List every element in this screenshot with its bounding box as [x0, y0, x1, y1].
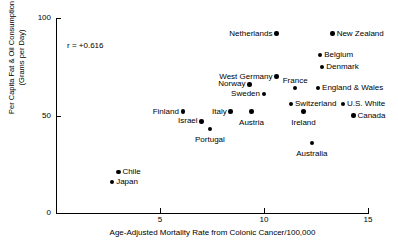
data-point-label: Canada [357, 112, 385, 120]
y-axis-title: Per Capita Fat & Oil Consumption (Grams … [7, 0, 26, 148]
x-tick-5 [160, 208, 161, 213]
data-point-label: Sweden [231, 90, 260, 98]
data-point-label: Finland [153, 108, 179, 116]
data-point-label: Belgium [324, 51, 353, 59]
data-point [274, 74, 279, 79]
data-point [330, 31, 335, 36]
data-point-label: France [283, 77, 308, 85]
data-point [249, 109, 254, 114]
x-tick-15 [368, 208, 369, 213]
data-point-label: New Zealand [337, 30, 384, 38]
data-point-label: Denmark [326, 63, 358, 71]
data-point [289, 102, 294, 107]
data-point [274, 31, 279, 36]
scatter-plot: 51015050100 Per Capita Fat & Oil Consump… [0, 0, 398, 246]
data-point-label: Netherlands [229, 30, 272, 38]
data-point-label: Ireland [291, 119, 315, 127]
data-point [247, 82, 252, 87]
correlation-annotation: r = +0.616 [67, 41, 103, 50]
data-point [310, 141, 315, 146]
data-point [208, 127, 213, 132]
data-point [116, 170, 121, 175]
y-tick-label-0: 0 [5, 209, 51, 217]
data-point-label: Japan [116, 178, 138, 186]
data-point [301, 109, 306, 114]
data-point [199, 119, 204, 124]
data-point-label: Italy [212, 108, 227, 116]
data-point [181, 109, 186, 114]
y-tick-0 [56, 213, 61, 214]
data-point [110, 180, 115, 185]
data-point-label: Portugal [195, 136, 225, 144]
x-tick-label-15: 15 [353, 216, 383, 224]
y-tick-50 [56, 116, 61, 117]
x-tick-label-5: 5 [145, 216, 175, 224]
data-point-label: Norway [218, 80, 245, 88]
x-axis-title: Age-Adjusted Mortality Rate from Colonic… [56, 228, 369, 237]
data-point [341, 102, 346, 107]
y-tick-100 [56, 18, 61, 19]
data-point [316, 86, 321, 91]
data-point [262, 92, 267, 97]
data-point-label: Austria [239, 119, 264, 127]
x-tick-10 [264, 208, 265, 213]
data-point-label: England & Wales [322, 84, 383, 92]
data-point [318, 53, 323, 58]
data-point-label: Chile [122, 168, 140, 176]
data-point [228, 109, 233, 114]
data-point [293, 86, 298, 91]
data-point-label: Switzerland [295, 100, 336, 108]
x-tick-label-10: 10 [249, 216, 279, 224]
data-point [351, 113, 356, 118]
x-axis-line [56, 213, 369, 214]
data-point-label: Israel [178, 117, 198, 125]
data-point-label: Australia [296, 150, 327, 158]
data-point [320, 65, 325, 70]
data-point-label: U.S. White [347, 100, 385, 108]
